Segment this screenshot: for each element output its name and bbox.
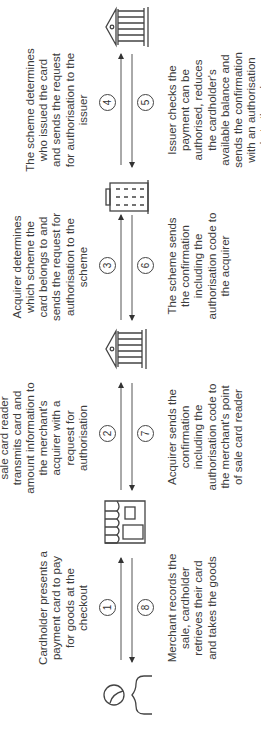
step-8-description: Merchant records the sale, cardholder re… (166, 550, 219, 666)
step-7-description: Acquirer sends the confirmation includin… (166, 382, 245, 492)
step-5-description: Issuer checks the payment can be authori… (166, 52, 261, 168)
step-badge-4: 4 (99, 94, 116, 111)
step-badge-1: 1 (99, 599, 116, 616)
step-badge-6: 6 (137, 257, 154, 274)
step-badge-8: 8 (137, 599, 154, 616)
step-3-description: Acquirer determines which scheme the car… (22, 210, 90, 324)
step-badge-5: 5 (137, 94, 154, 111)
payment-flow-diagram: 1 2 3 4 8 7 6 5 Cardholder presents a pa… (0, 0, 261, 734)
step-2-description: Merchant's point of sale card reader tra… (10, 382, 90, 494)
step-badge-3: 3 (99, 257, 116, 274)
step-badge-2: 2 (99, 425, 116, 442)
step-badge-7: 7 (137, 425, 154, 442)
step-6-description: The scheme sends the confirmation includ… (166, 210, 232, 322)
step-1-description: Cardholder presents a payment card to pa… (34, 550, 90, 666)
step-4-description: The scheme determines who issued the car… (34, 48, 90, 172)
